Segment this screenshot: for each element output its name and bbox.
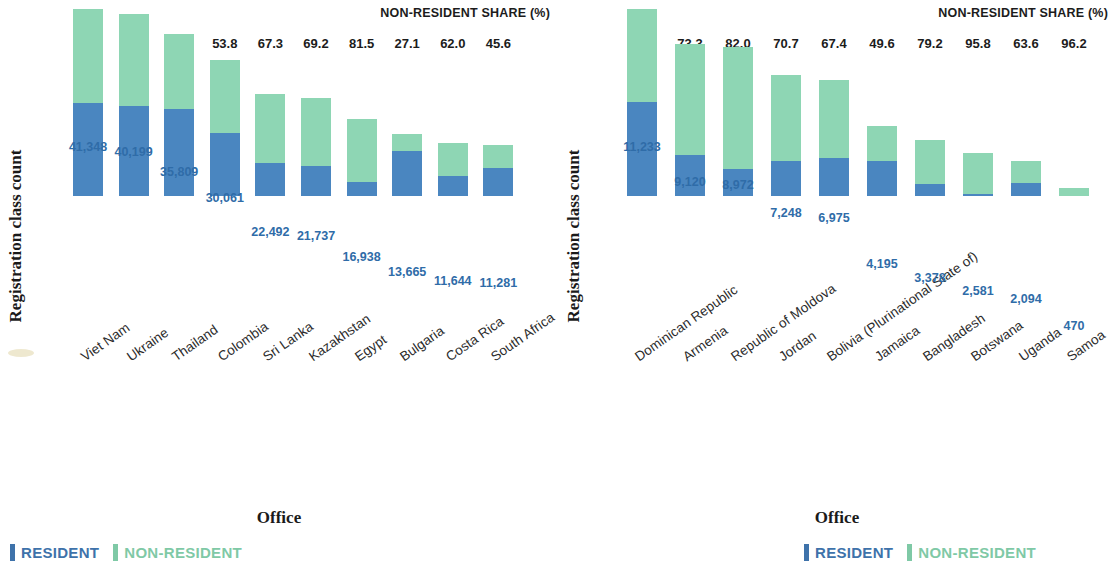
bar-segment-nonresident[interactable] xyxy=(1059,188,1089,196)
legend-swatch-resident-icon xyxy=(804,544,809,561)
x-axis-title-right: Office xyxy=(558,508,1116,528)
bar-column[interactable] xyxy=(119,14,149,196)
legend-swatch-nonresident-icon xyxy=(907,544,912,561)
bar-total-label: 21,737 xyxy=(286,229,346,243)
legend-item-nonresident-left[interactable]: NON-RESIDENT xyxy=(113,544,242,561)
legend-right: RESIDENT NON-RESIDENT xyxy=(804,544,1036,561)
bar-segment-resident[interactable] xyxy=(867,161,897,196)
bar-segment-nonresident[interactable] xyxy=(675,44,705,155)
bar-total-label: 2,094 xyxy=(996,292,1056,306)
x-axis-category-label: Colombia xyxy=(215,319,271,364)
plot-area-left: 41,348Viet Nam40,199Ukraine35,809Thailan… xyxy=(0,0,558,420)
bar-segment-nonresident[interactable] xyxy=(347,119,377,182)
bar-segment-nonresident[interactable] xyxy=(819,80,849,158)
bar-segment-resident[interactable] xyxy=(771,161,801,196)
x-axis-category-label: Egypt xyxy=(352,332,389,364)
bar-segment-nonresident[interactable] xyxy=(963,153,993,194)
chart-panel-right: NON-RESIDENT SHARE (%) 49.773.382.070.76… xyxy=(558,0,1116,569)
bar-total-label: 35,809 xyxy=(149,165,209,179)
bar-segment-nonresident[interactable] xyxy=(392,134,422,151)
bar-segment-resident[interactable] xyxy=(483,168,513,196)
legend-item-resident-right[interactable]: RESIDENT xyxy=(804,544,893,561)
bar-segment-resident[interactable] xyxy=(164,109,194,196)
bar-column[interactable] xyxy=(627,9,657,196)
bar-segment-nonresident[interactable] xyxy=(723,47,753,169)
bar-column[interactable] xyxy=(438,143,468,196)
x-axis-category-label: Bulgaria xyxy=(397,323,447,364)
bar-column[interactable] xyxy=(392,134,422,196)
bar-column[interactable] xyxy=(301,98,331,196)
bar-column[interactable] xyxy=(771,75,801,196)
bar-column[interactable] xyxy=(723,47,753,196)
bar-segment-nonresident[interactable] xyxy=(1011,161,1041,183)
bar-column[interactable] xyxy=(915,140,945,196)
bar-segment-nonresident[interactable] xyxy=(867,126,897,161)
bar-column[interactable] xyxy=(483,145,513,196)
legend-label-resident: RESIDENT xyxy=(815,544,893,561)
bar-segment-nonresident[interactable] xyxy=(301,98,331,166)
plot-area-right: 11,233Dominican Republic9,120Armenia8,97… xyxy=(558,0,1116,420)
bar-total-label: 11,233 xyxy=(612,140,672,154)
chart-panel-left: NON-RESIDENT SHARE (%) 50.550.746.053.86… xyxy=(0,0,558,569)
bar-total-label: 3,378 xyxy=(900,271,960,285)
bar-column[interactable] xyxy=(255,94,285,196)
bar-segment-nonresident[interactable] xyxy=(915,140,945,184)
bar-segment-resident[interactable] xyxy=(210,133,240,196)
bar-column[interactable] xyxy=(867,126,897,196)
bar-segment-resident[interactable] xyxy=(438,176,468,196)
legend-swatch-resident-icon xyxy=(10,544,15,561)
bar-total-label: 11,281 xyxy=(468,276,528,290)
bar-segment-resident[interactable] xyxy=(963,194,993,196)
bar-column[interactable] xyxy=(1011,161,1041,196)
bar-total-label: 4,195 xyxy=(852,257,912,271)
legend-swatch-nonresident-icon xyxy=(113,544,118,561)
bar-segment-resident[interactable] xyxy=(347,182,377,196)
x-axis-title-left: Office xyxy=(0,508,558,528)
bar-segment-nonresident[interactable] xyxy=(627,9,657,102)
bar-total-label: 16,938 xyxy=(332,250,392,264)
bar-segment-nonresident[interactable] xyxy=(210,60,240,133)
bar-segment-resident[interactable] xyxy=(1011,183,1041,196)
legend-left: RESIDENT NON-RESIDENT xyxy=(10,544,242,561)
bar-segment-nonresident[interactable] xyxy=(164,34,194,109)
bar-column[interactable] xyxy=(963,153,993,196)
bar-total-label: 6,975 xyxy=(804,211,864,225)
legend-label-resident: RESIDENT xyxy=(21,544,99,561)
bar-column[interactable] xyxy=(347,119,377,196)
bar-column[interactable] xyxy=(819,80,849,196)
bar-segment-nonresident[interactable] xyxy=(119,14,149,106)
bar-column[interactable] xyxy=(675,44,705,196)
bar-total-label: 30,061 xyxy=(195,191,255,205)
bar-column[interactable] xyxy=(73,9,103,196)
bar-column[interactable] xyxy=(1059,188,1089,196)
bar-segment-nonresident[interactable] xyxy=(483,145,513,168)
chart-page: NON-RESIDENT SHARE (%) 50.550.746.053.86… xyxy=(0,0,1116,569)
x-axis-category-label: Sri Lanka xyxy=(260,319,316,365)
bar-segment-nonresident[interactable] xyxy=(73,9,103,103)
legend-item-resident-left[interactable]: RESIDENT xyxy=(10,544,99,561)
bar-segment-resident[interactable] xyxy=(301,166,331,196)
bar-segment-resident[interactable] xyxy=(915,184,945,196)
bar-total-label: 8,972 xyxy=(708,178,768,192)
bar-total-label: 40,199 xyxy=(104,145,164,159)
bar-segment-nonresident[interactable] xyxy=(771,75,801,161)
x-axis-category-label: Viet Nam xyxy=(78,320,133,364)
bar-segment-resident[interactable] xyxy=(392,151,422,196)
bar-segment-nonresident[interactable] xyxy=(255,94,285,163)
x-axis-category-label: Thailand xyxy=(169,322,221,364)
legend-item-nonresident-right[interactable]: NON-RESIDENT xyxy=(907,544,1036,561)
legend-label-nonresident: NON-RESIDENT xyxy=(124,544,242,561)
x-axis-category-label: Jordan xyxy=(776,328,819,364)
bar-segment-resident[interactable] xyxy=(819,158,849,196)
bar-segment-resident[interactable] xyxy=(255,163,285,196)
bar-segment-nonresident[interactable] xyxy=(438,143,468,176)
bar-column[interactable] xyxy=(210,60,240,196)
legend-label-nonresident: NON-RESIDENT xyxy=(918,544,1036,561)
